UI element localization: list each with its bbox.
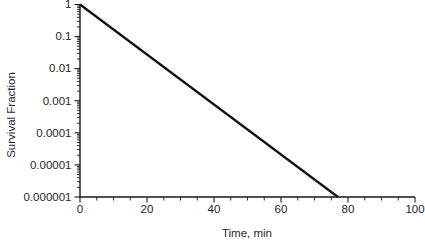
survival-curve-chart: 10.10.010.0010.00010.000010.000001020406…	[0, 0, 425, 240]
y-tick-label: 0.1	[56, 30, 72, 42]
y-tick-label: 0.0001	[36, 127, 71, 139]
x-axis-title: Time, min	[222, 227, 272, 239]
x-tick-label: 20	[141, 203, 154, 215]
axes-lines	[80, 5, 415, 198]
x-tick-label: 0	[77, 203, 83, 215]
x-tick-label: 100	[405, 203, 424, 215]
x-tick-label: 60	[275, 203, 288, 215]
y-tick-label: 0.01	[49, 62, 71, 74]
survival-fraction-line	[80, 5, 338, 198]
y-tick-label: 1	[65, 0, 71, 10]
y-tick-label: 0.001	[43, 95, 72, 107]
y-axis-title: Survival Fraction	[5, 72, 17, 158]
x-tick-label: 40	[208, 203, 221, 215]
y-tick-label: 0.000001	[24, 191, 72, 203]
chart-canvas: 10.10.010.0010.00010.000010.000001020406…	[0, 0, 425, 240]
x-tick-label: 80	[342, 203, 355, 215]
y-tick-label: 0.00001	[30, 159, 72, 171]
axes-layer: 10.10.010.0010.00010.000010.000001020406…	[24, 0, 425, 215]
